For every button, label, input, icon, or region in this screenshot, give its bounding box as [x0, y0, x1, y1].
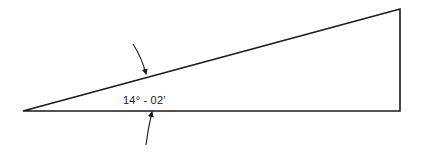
triangle-diagram [0, 0, 421, 155]
upper-angle-arrow [133, 44, 146, 74]
lower-angle-arrow [146, 112, 152, 145]
triangle-outline [23, 9, 400, 111]
angle-label: 14° - 02′ [123, 94, 166, 106]
